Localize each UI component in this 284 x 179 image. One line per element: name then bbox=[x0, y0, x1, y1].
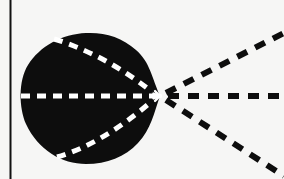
figure-canvas bbox=[0, 0, 284, 179]
starburst-core bbox=[158, 94, 162, 98]
scattering-diagram bbox=[0, 0, 284, 179]
